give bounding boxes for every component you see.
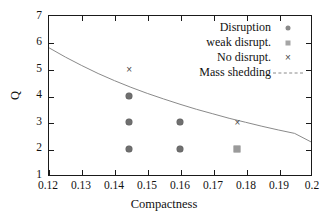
legend: Disruption weak disrupt. No disrupt. × M… (153, 20, 305, 80)
x-tick-label: 0.2 (292, 178, 328, 192)
legend-key (271, 65, 305, 80)
plot-area: ×× Disruption weak disrupt. No disrupt. … (48, 15, 312, 176)
data-point-no-disrupt: × (233, 118, 242, 127)
legend-entry-weak-disrupt: weak disrupt. (153, 35, 305, 50)
filled-square-icon (286, 40, 291, 45)
data-point-weak-disrupt (234, 146, 240, 152)
legend-label: Disruption (220, 20, 271, 35)
y-tick-label: 7 (26, 9, 42, 21)
data-point-disruption (177, 119, 183, 125)
y-tick-label: 6 (26, 35, 42, 47)
data-point-disruption (126, 146, 132, 152)
y-axis-title: Q (8, 76, 23, 116)
legend-key (271, 35, 305, 50)
cross-icon: × (285, 53, 291, 63)
figure: Q 7 6 5 4 3 2 1 0.12 0.13 0.14 0.15 0.16… (0, 0, 328, 223)
data-point-disruption (177, 146, 183, 152)
legend-entry-disruption: Disruption (153, 20, 305, 35)
y-tick-label: 5 (26, 62, 42, 74)
legend-label: weak disrupt. (206, 35, 271, 50)
legend-entry-mass-shedding: Mass shedding (153, 65, 305, 80)
legend-label: Mass shedding (199, 65, 271, 80)
data-point-disruption (126, 93, 132, 99)
y-tick-label: 4 (26, 88, 42, 100)
legend-entry-no-disrupt: No disrupt. × (153, 50, 305, 65)
data-point-no-disrupt: × (125, 65, 134, 74)
legend-key: × (271, 50, 305, 65)
filled-circle-icon (286, 25, 291, 30)
legend-label: No disrupt. (217, 50, 271, 65)
dashed-line-icon (273, 72, 303, 73)
x-tick (311, 170, 312, 175)
y-tick-label: 3 (26, 115, 42, 127)
data-point-disruption (126, 119, 132, 125)
y-tick-label: 2 (26, 141, 42, 153)
x-axis-title: Compactness (0, 197, 328, 212)
legend-key (271, 20, 305, 35)
